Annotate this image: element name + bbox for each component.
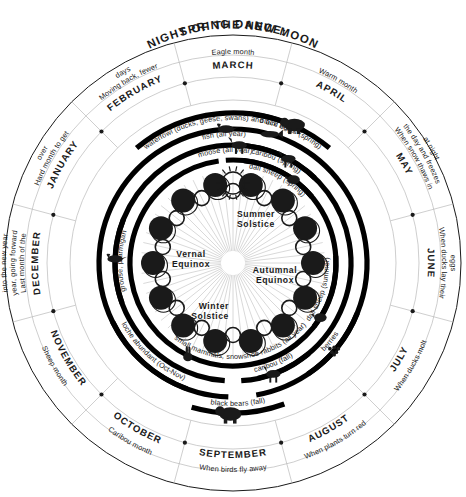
month-meaning-december: Last month of the [17,233,28,294]
month-name-september: SEPTEMBER [198,446,267,460]
month-divider [174,420,191,483]
month-boundary-dot [51,213,55,217]
solar-marker-line2: Equinox [172,259,210,269]
new-moon-glyph [203,173,230,200]
month-meaning-june: eggs [449,255,458,272]
solar-marker-line1: Autumnal [253,265,297,275]
solar-marker: WinterSolstice [191,301,229,321]
new-moon-glyph [149,286,176,313]
solar-marker-line1: Winter [199,301,229,311]
month-name-june: JUNE [425,248,437,279]
new-moon-glyph [293,216,320,243]
month-meaning-march: Eagle month [211,47,255,57]
solar-marker: VernalEquinox [172,249,210,269]
month-divider [348,102,394,148]
month-boundary-dot [183,81,187,85]
month-boundary-dot [99,392,103,396]
month-boundary-dot [362,129,366,133]
month-divider [390,305,453,322]
month-boundary-dot [362,392,366,396]
month-divider [390,204,453,221]
solar-marker: AutumnalEquinox [253,265,297,285]
month-divider [348,378,394,424]
month-divider [174,43,191,106]
month-boundary-dot [279,441,283,445]
month-boundary-dot [99,129,103,133]
month-divider [275,43,292,106]
month-divider [275,420,292,483]
seasonal-calendar-wheel: waterfowl (ducks, geese, swans) and bird… [0,0,466,497]
month-boundary-dot [411,213,415,217]
solar-marker-line1: Vernal [176,249,205,259]
new-moon-glyph [149,216,176,243]
solar-marker-line1: Summer [237,209,275,219]
month-name-march: MARCH [212,59,254,71]
month-divider [13,204,76,221]
month-boundary-dot [411,309,415,313]
month-name-december: DECEMBER [29,230,43,295]
month-boundary-dot [279,81,283,85]
solar-marker: SummerSolstice [237,209,275,229]
solar-marker-labels: VernalEquinoxSummerSolsticeAutumnalEquin… [172,209,297,321]
month-boundary-dot [51,309,55,313]
solar-marker-line2: Solstice [191,311,229,321]
month-meaning-september: When birds fly away [199,462,268,474]
solar-marker-line2: Solstice [237,219,275,229]
month-divider [13,305,76,322]
solar-marker-line2: Equinox [256,275,294,285]
black-bear-icon [215,406,241,423]
month-meaning-june: When ducks lay their [437,227,449,300]
month-boundary-dot [183,441,187,445]
